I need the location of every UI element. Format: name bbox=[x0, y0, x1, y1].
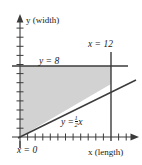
label-x-equals-12: x = 12 bbox=[88, 40, 113, 50]
label-x-equals-0: x = 0 bbox=[17, 146, 37, 156]
fraction-numerator: 1 bbox=[75, 115, 78, 122]
diagonal-label-suffix: x bbox=[78, 117, 82, 127]
coordinate-plane-svg bbox=[0, 0, 142, 165]
x-axis-label: x (length) bbox=[88, 148, 123, 157]
fraction-denominator: 2 bbox=[75, 121, 78, 129]
x-axis-arrow-icon bbox=[131, 134, 140, 141]
y-axis-label: y (width) bbox=[26, 16, 59, 25]
label-y-equals-8: y = 8 bbox=[39, 57, 59, 67]
one-half-fraction: 12 bbox=[75, 115, 78, 130]
diagonal-label-prefix: y = bbox=[61, 117, 74, 127]
label-y-equals-half-x: y =12x bbox=[61, 115, 82, 130]
graph-figure: y (width) x (length) x = 12 y = 8 x = 0 … bbox=[0, 0, 142, 165]
y-axis-arrow-icon bbox=[17, 14, 24, 23]
